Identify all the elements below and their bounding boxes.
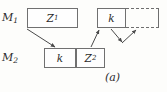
block-dashed-placeholder [126, 8, 159, 28]
row-label-m2: M2 [2, 52, 18, 64]
figure-caption: (a) [105, 72, 120, 83]
figure-diagram: M1 M2 Z1 k k Z2 (a) [0, 0, 167, 92]
block-k-top: k [97, 8, 126, 28]
arrow-z1-to-k-bottom [27, 29, 55, 47]
arrow-up-to-dashed [122, 30, 136, 43]
arrow-z2-to-k-top [91, 30, 99, 47]
block-z2: Z2 [76, 48, 105, 68]
row-label-m1: M1 [2, 12, 18, 24]
block-k-bottom: k [44, 48, 76, 68]
block-z1: Z1 [27, 8, 78, 28]
arrow-k-top-down [111, 29, 122, 42]
